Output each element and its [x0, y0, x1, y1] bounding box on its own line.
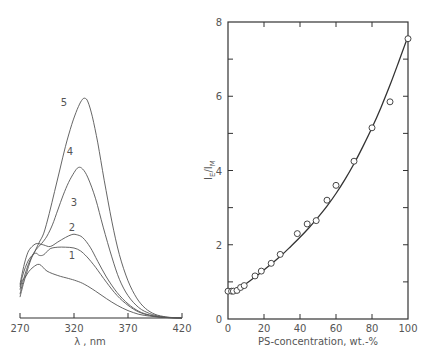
spectrum-curve-3: [20, 234, 182, 318]
right-x-tick-label: 0: [225, 323, 231, 334]
data-point: [268, 260, 274, 266]
data-point: [313, 218, 319, 224]
left-x-tick-label: 320: [64, 323, 83, 334]
data-point: [351, 158, 357, 164]
right-x-tick-label: 80: [366, 323, 379, 334]
data-point: [304, 221, 310, 227]
curve-label-4: 4: [67, 146, 73, 157]
right-y-tick-label: 8: [216, 17, 222, 28]
spectrum-curve-1: [20, 264, 182, 318]
left-x-tick-label: 370: [118, 323, 137, 334]
right-y-tick-label: 2: [216, 240, 222, 251]
curve-label-3: 3: [71, 197, 77, 208]
right-x-axis-title: PS-concentration, wt.-%: [258, 336, 378, 347]
data-point: [387, 99, 393, 105]
right-x-tick-label: 100: [398, 323, 417, 334]
data-point: [258, 268, 264, 274]
data-points: [225, 36, 411, 294]
data-point: [333, 182, 339, 188]
fit-curve: [232, 37, 408, 292]
ratio-vs-concentration-panel: 02040608010002468 PS-concentration, wt.-…: [203, 17, 418, 347]
left-x-tick-label: 420: [172, 323, 191, 334]
spectrum-curve-2: [20, 247, 182, 318]
right-y-tick-label: 6: [216, 91, 222, 102]
data-point: [294, 231, 300, 237]
curve-labels: 12345: [61, 97, 77, 261]
spectra-curves: [20, 98, 182, 318]
data-point: [405, 36, 411, 42]
curve-label-2: 2: [69, 222, 75, 233]
right-y-tick-label: 0: [216, 314, 222, 325]
curve-label-5: 5: [61, 97, 67, 108]
data-point: [369, 125, 375, 131]
data-point: [252, 273, 258, 279]
data-point: [277, 251, 283, 257]
data-point: [324, 197, 330, 203]
right-x-tick-label: 60: [330, 323, 343, 334]
curve-label-1: 1: [69, 250, 75, 261]
right-x-tick-label: 20: [258, 323, 271, 334]
y-title-sub-m: M: [209, 160, 217, 166]
emission-spectra-panel: 270320370420 12345 λ , nm: [10, 97, 191, 347]
data-point: [241, 283, 247, 289]
left-x-ticks: 270320370420: [10, 313, 191, 334]
left-x-tick-label: 270: [10, 323, 29, 334]
spectrum-curve-5: [20, 98, 182, 318]
left-x-axis-title: λ , nm: [74, 336, 106, 347]
figure: 270320370420 12345 λ , nm 02040608010002…: [0, 0, 431, 355]
right-x-tick-label: 40: [294, 323, 307, 334]
